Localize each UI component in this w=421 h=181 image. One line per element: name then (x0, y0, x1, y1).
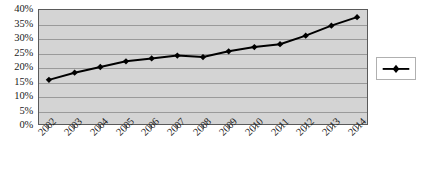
data-point-marker (251, 44, 257, 50)
data-point-marker (303, 33, 309, 39)
y-axis-tick-label: 35% (14, 18, 33, 29)
data-point-marker (277, 41, 283, 47)
y-axis-tick-label: 40% (14, 4, 33, 15)
series-line (49, 17, 357, 80)
line-chart: 0%5%10%15%20%25%30%35%40% 20022003200420… (0, 0, 421, 181)
plot-inner (39, 10, 367, 124)
plot-area (38, 9, 368, 125)
x-axis: 2002200320042005200620072008200920102011… (38, 130, 368, 181)
data-point-marker (225, 48, 231, 54)
y-axis-tick-label: 25% (14, 47, 33, 58)
y-axis-tick-label: 30% (14, 33, 33, 44)
legend (376, 57, 416, 80)
data-point-marker (123, 58, 129, 64)
y-axis: 0%5%10%15%20%25%30%35%40% (0, 0, 36, 130)
data-series-svg (39, 10, 367, 124)
legend-series-marker-icon (377, 58, 415, 80)
data-point-marker (148, 55, 154, 61)
data-point-marker (71, 70, 77, 76)
y-axis-tick-label: 15% (14, 76, 33, 87)
data-point-marker (46, 77, 52, 83)
y-axis-tick-label: 0% (19, 120, 33, 131)
y-axis-tick-label: 5% (19, 105, 33, 116)
y-axis-tick-label: 20% (14, 62, 33, 73)
data-point-marker (354, 14, 360, 20)
data-point-marker (97, 64, 103, 70)
data-point-marker (328, 23, 334, 29)
y-axis-tick-label: 10% (14, 91, 33, 102)
data-point-marker (200, 54, 206, 60)
data-point-marker (174, 52, 180, 58)
